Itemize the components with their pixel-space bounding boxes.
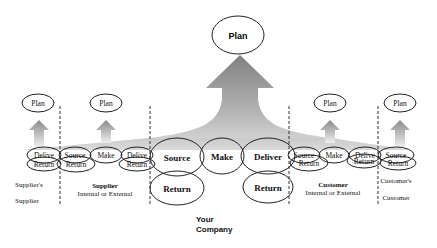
source-label: Source [164,153,190,163]
return-label: Return [254,183,282,193]
plan-label: Plan [99,99,113,108]
customers-customer-caption-2: Customer [382,194,410,202]
deliver-label: Delive [34,151,55,160]
arrow-up-icon [29,120,49,147]
arrow-up-icon [96,120,116,143]
source-label: Source [65,151,86,160]
small-plan-nodes [22,94,416,112]
company-caption-2: Company [196,225,233,234]
suppliers-supplier-caption: Supplier's [15,181,43,189]
svg-text:Plan: Plan [228,31,247,41]
plan-label: Plan [323,99,337,108]
customer-caption-2: Internal or External [306,189,361,197]
big-plan-arrow [22,55,410,150]
make-label: Make [325,151,343,160]
deliver-label: Delive [127,151,148,160]
top-plan-node: Plan [212,16,264,54]
scor-diagram: Plan Plan Plan Plan Plan Delive Return S… [0,0,437,248]
customer-caption: Customer [318,181,348,189]
plan-label: Plan [31,99,45,108]
plan-label: Plan [393,99,407,108]
return-label: Return [354,157,375,166]
return-label: Return [127,160,148,169]
suppliers-supplier-caption-2: Supplier [15,197,39,205]
arrow-up-icon [390,120,410,147]
make-label: Make [211,152,233,162]
make-label: Make [97,151,115,160]
return-label: Return [299,159,320,168]
customers-customer-caption: Customer's [380,177,411,185]
company-caption: Your [196,215,214,224]
supplier-caption: Supplier [92,182,118,190]
deliver-label: Deliver [254,152,282,162]
return-label: Return [163,184,191,194]
supplier-caption-2: Internal or External [78,190,133,198]
return-label: Return [66,160,87,169]
return-label: Return [34,160,55,169]
return-label: Return [388,159,409,168]
